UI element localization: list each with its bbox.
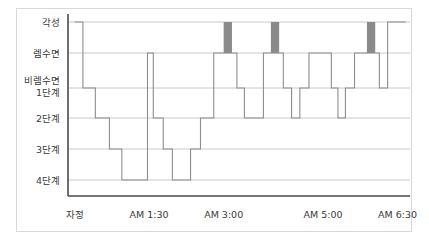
x-tick-label: AM 5:00 [304, 209, 343, 220]
x-tick-label: AM 6:30 [378, 209, 417, 220]
highlight-bars [224, 22, 376, 53]
x-axis-labels: 자정AM 1:30AM 3:00AM 5:00AM 6:30 [66, 209, 417, 220]
x-tick-label: AM 3:00 [204, 209, 243, 220]
gridlines [68, 22, 410, 180]
awake-highlight-bar [367, 22, 375, 53]
y-tick-label: 렘수면 [33, 48, 60, 59]
screenshot-root: 각성렘수면비렘수면1단계2단계3단계4단계 자정AM 1:30AM 3:00AM… [0, 0, 429, 248]
x-tick-label: AM 1:30 [130, 209, 169, 220]
y-tick-label: 3단계 [36, 144, 60, 155]
hypnogram-figure: 각성렘수면비렘수면1단계2단계3단계4단계 자정AM 1:30AM 3:00AM… [0, 0, 429, 248]
x-tick-label: 자정 [66, 209, 84, 220]
sleep-stage-trace [75, 22, 406, 180]
y-tick-label: 4단계 [36, 175, 60, 186]
awake-highlight-bar [271, 22, 279, 53]
y-axis-labels: 각성렘수면비렘수면1단계2단계3단계4단계 [24, 17, 60, 186]
y-tick-label: 비렘수면 [24, 75, 60, 86]
awake-highlight-bar [224, 22, 232, 53]
y-tick-label: 1단계 [36, 87, 60, 98]
axis-lines [68, 14, 410, 196]
y-tick-label: 각성 [42, 17, 60, 28]
stage-trace-path [75, 22, 406, 180]
hypnogram-svg: 각성렘수면비렘수면1단계2단계3단계4단계 자정AM 1:30AM 3:00AM… [0, 0, 429, 248]
y-tick-label: 2단계 [36, 113, 60, 124]
